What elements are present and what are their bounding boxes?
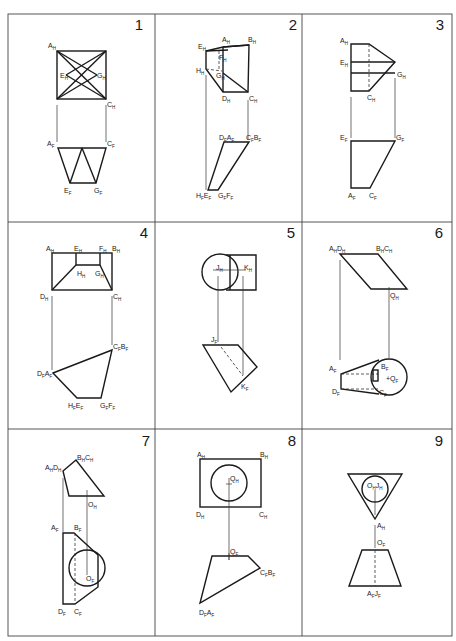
vertex-label-1-gh: GH xyxy=(97,72,106,81)
vertex-label-7-df: DF xyxy=(58,608,66,617)
vertex-label-8-qh: QH xyxy=(230,475,239,484)
panel-1-drawing xyxy=(57,51,106,183)
vertex-label-9-afjf: AFJF xyxy=(367,590,381,599)
vertex-label-8-qf: QF xyxy=(230,548,238,557)
panel-number-7: 7 xyxy=(142,432,150,449)
vertex-label-3-ef: EF xyxy=(340,134,348,143)
vertex-label-6-df: DF xyxy=(332,388,340,397)
panel-number-5: 5 xyxy=(287,224,295,241)
vertex-label-5-kh: KH xyxy=(244,264,252,273)
vertex-label-2-ah: AH xyxy=(222,36,230,45)
vertex-label-3-af: AF xyxy=(348,192,356,201)
vertex-label-6-qh: QH xyxy=(390,292,399,301)
vertex-label-8-bh: BH xyxy=(260,451,268,460)
panel-number-2: 2 xyxy=(289,16,297,33)
vertex-label-9-ah: AH xyxy=(377,522,385,531)
panel-6-drawing xyxy=(340,254,407,395)
vertex-label-2-hh: HH xyxy=(196,67,204,76)
vertex-label-1-ef: EF xyxy=(64,187,72,196)
vertex-label-7-af: AF xyxy=(51,524,59,533)
vertex-label-4-ah: AH xyxy=(46,245,54,254)
vertex-label-2-hfef: HFEF xyxy=(196,192,211,201)
vertex-label-4-hfef: HFEF xyxy=(68,402,83,411)
vertex-label-5-kf: KF xyxy=(241,383,249,392)
vertex-label-3-ah: AH xyxy=(340,37,348,46)
vertex-label-2-ch: CH xyxy=(249,95,257,104)
vertex-label-4-dh: DH xyxy=(40,293,48,302)
vertex-label-1-ah: AH xyxy=(48,42,56,51)
vertex-label-3-ch: CH xyxy=(367,94,375,103)
vertex-label-4-ch: CH xyxy=(113,293,121,302)
panel-9-drawing xyxy=(348,474,402,586)
vertex-label-5-jh: JH xyxy=(216,264,223,273)
vertex-label-3-gf: GF xyxy=(396,134,404,143)
vertex-label-8-dh: DH xyxy=(196,511,204,520)
vertex-label-8-cfbf: CFBF xyxy=(260,569,275,578)
vertex-labels: AHEHGHCHAFCFEFGFEHAHBHFHHHGHDHCHDFAFCFBF… xyxy=(37,36,406,618)
vertex-label-4-bh: BH xyxy=(112,245,120,254)
vertex-label-7-of: OF xyxy=(86,575,94,584)
panel-2-drawing xyxy=(206,45,249,190)
vertex-label-6-bf: BF xyxy=(381,363,389,372)
vertex-label-1-cf: CF xyxy=(107,140,115,149)
vertex-label-2-dh: DH xyxy=(222,95,230,104)
panel-number-8: 8 xyxy=(288,432,296,449)
vertex-label-2-bh: BH xyxy=(248,36,256,45)
projection-sheet: 1 2 3 4 5 6 7 8 9 xyxy=(0,0,456,641)
vertex-label-6-ahdh: AHDH xyxy=(329,245,345,254)
vertex-label-3-eh: EH xyxy=(340,59,348,68)
vertex-label-4-dfaf: DFAF xyxy=(37,370,52,379)
vertex-label-4-hh: HH xyxy=(77,270,85,279)
vertex-label-9-of: OF xyxy=(377,539,385,548)
panel-number-4: 4 xyxy=(140,224,148,241)
vertex-label-4-gfff: GFFF xyxy=(100,402,115,411)
vertex-label-3-cf: CF xyxy=(369,192,377,201)
vertex-label-4-cfbf: CFBF xyxy=(113,343,128,352)
panel-number-3: 3 xyxy=(436,16,444,33)
vertex-label-2-cfbf: CFBF xyxy=(246,134,261,143)
vertex-label-6-cf: CF xyxy=(379,389,387,398)
vertex-label-2-eh: EH xyxy=(198,43,206,52)
panel-number-9: 9 xyxy=(435,432,443,449)
vertex-label-6-qf: +QF xyxy=(386,375,399,384)
vertex-label-7-ahdh: AHDH xyxy=(45,464,61,473)
vertex-label-6-bhch: BHCH xyxy=(376,245,392,254)
vertex-label-7-cf: CF xyxy=(74,608,82,617)
panel-number-1: 1 xyxy=(135,16,143,33)
vertex-label-7-oh: OH xyxy=(88,501,97,510)
vertex-label-9-ohjh: OHJH xyxy=(367,482,382,491)
panel-5-drawing xyxy=(202,254,257,392)
panel-7-drawing xyxy=(63,460,105,604)
vertex-label-2-fh: FH xyxy=(219,54,227,63)
vertex-label-2-dfaf: DFAF xyxy=(219,134,234,143)
vertex-label-1-eh: EH xyxy=(60,72,68,81)
vertex-label-6-af: AF xyxy=(329,365,337,374)
vertex-label-7-bf: BF xyxy=(74,524,82,533)
panel-3-drawing xyxy=(351,44,395,188)
grid-frame xyxy=(8,14,452,636)
vertex-label-1-af: AF xyxy=(47,140,55,149)
vertex-label-2-gfff: GFFF xyxy=(218,192,233,201)
vertex-label-1-ch: CH xyxy=(107,101,115,110)
vertex-label-4-eh: EH xyxy=(74,245,82,254)
vertex-label-7-bhch: BHCH xyxy=(77,454,93,463)
vertex-label-4-fh: FH xyxy=(99,245,107,254)
vertex-label-5-jf: JF xyxy=(211,336,218,345)
vertex-label-8-ch: CH xyxy=(259,511,267,520)
vertex-label-8-dfaf: DFAF xyxy=(199,609,214,618)
vertex-label-8-ah: AH xyxy=(197,451,205,460)
vertex-label-3-gh: GH xyxy=(397,71,406,80)
vertex-label-1-gf: GF xyxy=(94,187,102,196)
panel-number-6: 6 xyxy=(435,224,443,241)
